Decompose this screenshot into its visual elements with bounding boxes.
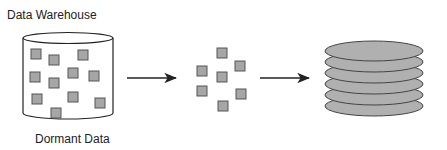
- disk-platter-icon: [325, 41, 423, 61]
- data-square-icon: [89, 71, 99, 81]
- data-square-icon: [235, 61, 245, 71]
- data-square-icon: [49, 78, 59, 88]
- disk-stack-icon: [325, 41, 423, 116]
- data-square-icon: [49, 55, 59, 65]
- data-square-icon: [95, 98, 105, 108]
- data-square-icon: [218, 101, 228, 111]
- diagram-graphics: [0, 0, 447, 150]
- data-square-icon: [68, 92, 78, 102]
- data-square-icon: [51, 108, 61, 118]
- data-square-icon: [68, 68, 78, 78]
- data-square-icon: [197, 66, 207, 76]
- data-square-icon: [197, 86, 207, 96]
- data-square-icon: [217, 48, 227, 58]
- data-square-icon: [32, 94, 42, 104]
- data-square-icon: [78, 50, 88, 60]
- data-square-icon: [217, 72, 227, 82]
- diagram-canvas: Data Warehouse Dormant Data: [0, 0, 447, 150]
- data-square-icon: [236, 89, 246, 99]
- data-square-icon: [31, 49, 41, 59]
- extracted-data-squares: [197, 48, 246, 111]
- data-square-icon: [30, 72, 40, 82]
